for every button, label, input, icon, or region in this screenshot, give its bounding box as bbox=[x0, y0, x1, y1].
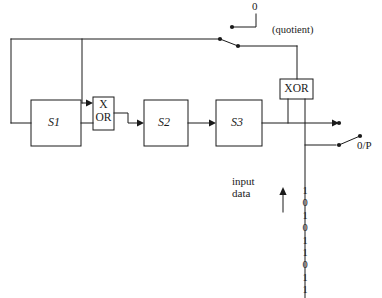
wire-zero-terminal bbox=[232, 14, 256, 27]
xor-input-label-line2: OR bbox=[93, 112, 114, 124]
arrowhead-tap-to-xor bbox=[86, 100, 93, 107]
output-label: 0/P bbox=[357, 140, 372, 152]
input-data-label-line2: data bbox=[232, 188, 250, 200]
arrowhead-xor-to-s2 bbox=[137, 120, 144, 127]
input-bit-stream: 101011011 bbox=[298, 185, 312, 297]
xor-output-label: XOR bbox=[280, 83, 313, 95]
register-label-s1: S1 bbox=[48, 116, 60, 129]
output-switch-pivot bbox=[358, 134, 362, 138]
output-switch-contact-upper bbox=[337, 121, 341, 125]
input-bit-4: 1 bbox=[298, 235, 312, 247]
input-bit-2: 1 bbox=[298, 210, 312, 222]
input-bit-6: 0 bbox=[298, 259, 312, 271]
input-data-label-line1: input bbox=[232, 176, 255, 188]
register-label-s2: S2 bbox=[158, 116, 170, 129]
register-label-s3: S3 bbox=[231, 116, 243, 129]
input-bit-8: 1 bbox=[298, 284, 312, 296]
mode-switch-contact-left bbox=[218, 37, 222, 41]
arrowhead-s2-to-s3 bbox=[209, 120, 216, 127]
input-bit-1: 0 bbox=[298, 197, 312, 209]
input-bit-7: 1 bbox=[298, 272, 312, 284]
input-bit-5: 1 bbox=[298, 247, 312, 259]
circuit-diagram bbox=[0, 0, 382, 298]
zero-terminal-contact bbox=[230, 25, 234, 29]
input-bit-3: 0 bbox=[298, 222, 312, 234]
mode-switch-blade bbox=[220, 39, 238, 46]
wire-xor-to-s2 bbox=[114, 113, 141, 123]
zero-terminal-label: 0 bbox=[252, 1, 258, 13]
xor-input-label-line1: X bbox=[93, 99, 114, 111]
input-bit-0: 1 bbox=[298, 185, 312, 197]
figure-canvas: S1 S2 S3 X OR XOR 0 (quotient) 0/P input… bbox=[0, 0, 382, 298]
quotient-label: (quotient) bbox=[272, 24, 313, 35]
input-data-arrowhead bbox=[279, 187, 286, 195]
